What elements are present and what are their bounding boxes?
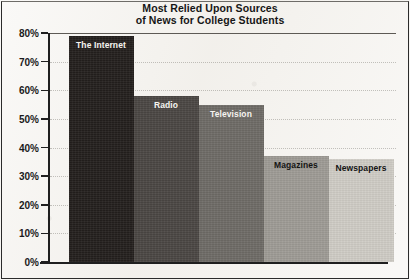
y-axis-label: 50% bbox=[19, 113, 39, 124]
bar: The Internet bbox=[69, 36, 134, 262]
chart-title-line-2: of News for College Students bbox=[60, 14, 360, 26]
y-axis-tick bbox=[41, 90, 48, 92]
y-axis-label: 30% bbox=[19, 171, 39, 182]
y-axis-tick bbox=[41, 61, 48, 63]
bar: Television bbox=[199, 105, 264, 262]
y-axis-label: 20% bbox=[19, 199, 39, 210]
plot-area: 80%70%60%50%40%30%20%10%0% The InternetR… bbox=[48, 33, 396, 262]
chart-title: Most Relied Upon Sources of News for Col… bbox=[60, 2, 360, 26]
bar: Newspapers bbox=[329, 159, 394, 262]
bar-label: Television bbox=[199, 109, 264, 119]
y-axis-tick bbox=[41, 118, 48, 120]
y-axis-label: 80% bbox=[19, 28, 39, 39]
y-axis-tick bbox=[41, 204, 48, 206]
bar-texture bbox=[199, 105, 264, 262]
chart-title-line-1: Most Relied Upon Sources bbox=[60, 2, 360, 14]
y-axis-tick bbox=[41, 147, 48, 149]
y-axis-label: 70% bbox=[19, 56, 39, 67]
bar-label: Radio bbox=[134, 100, 199, 110]
y-axis-tick bbox=[41, 261, 48, 263]
bar-texture bbox=[264, 156, 329, 262]
bar-texture bbox=[134, 96, 199, 262]
bar-texture bbox=[329, 159, 394, 262]
bar-label: Newspapers bbox=[329, 163, 394, 173]
x-axis-line bbox=[40, 262, 388, 264]
bar-texture bbox=[69, 36, 134, 262]
bar-series: The InternetRadioTelevisionMagazinesNews… bbox=[50, 33, 396, 262]
chart-page: Most Relied Upon Sources of News for Col… bbox=[0, 0, 410, 280]
y-axis-label: 10% bbox=[19, 228, 39, 239]
bar: Magazines bbox=[264, 156, 329, 262]
y-axis-label: 0% bbox=[25, 257, 39, 268]
y-axis-tick bbox=[41, 233, 48, 235]
y-axis-label: 40% bbox=[19, 142, 39, 153]
y-axis-tick bbox=[41, 32, 48, 34]
bar: Radio bbox=[134, 96, 199, 262]
bar-label: The Internet bbox=[69, 40, 134, 50]
y-axis-tick bbox=[41, 175, 48, 177]
y-axis-label: 60% bbox=[19, 85, 39, 96]
bar-label: Magazines bbox=[264, 160, 329, 170]
